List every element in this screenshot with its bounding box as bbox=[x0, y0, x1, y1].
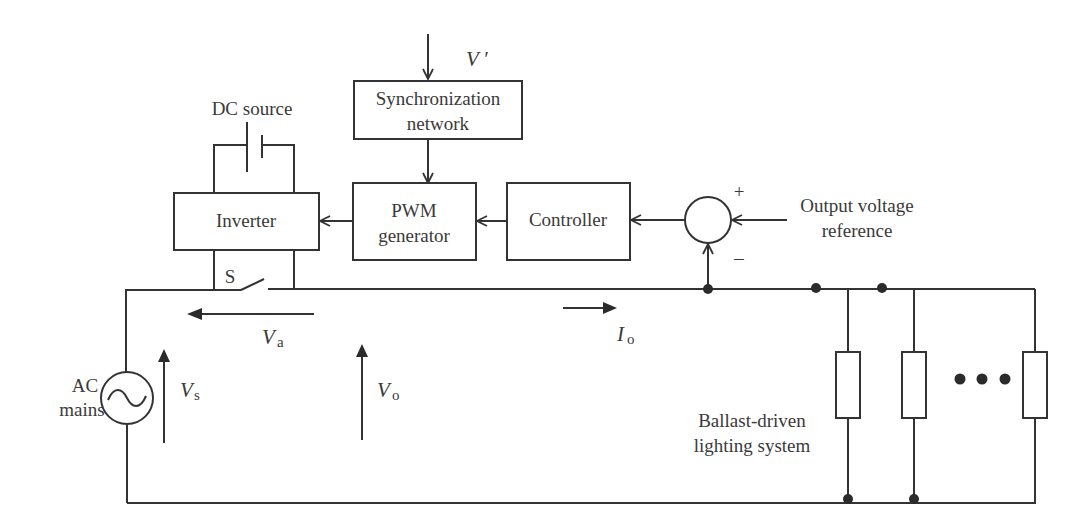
v-prime-label: V ′ bbox=[466, 47, 488, 71]
ellipsis-dot-2 bbox=[977, 374, 988, 385]
io-arrow-head bbox=[603, 302, 617, 314]
pwm-generator-block: PWM generator bbox=[353, 183, 476, 260]
va-main: V bbox=[262, 325, 277, 349]
inverter-label: Inverter bbox=[216, 210, 277, 231]
pwm-label-line1: PWM bbox=[391, 200, 437, 221]
va-arrow-head bbox=[187, 308, 202, 320]
dc-source-label: DC source bbox=[212, 98, 293, 119]
load-n-ballast bbox=[1023, 352, 1047, 418]
junction-dot-1 bbox=[811, 283, 821, 293]
sync-label-line1: Synchronization bbox=[376, 88, 501, 109]
switch-label: S bbox=[225, 266, 236, 287]
vs-sub: s bbox=[194, 387, 200, 403]
vo-sub: o bbox=[392, 387, 400, 403]
output-reference-line1: Output voltage bbox=[800, 195, 913, 216]
va-sub: a bbox=[277, 334, 284, 350]
ac-label-line2: mains bbox=[59, 399, 104, 420]
minus-sign: – bbox=[733, 247, 744, 268]
pwm-label-line2: generator bbox=[378, 225, 450, 246]
synchronization-network-block: Synchronization network bbox=[354, 81, 522, 139]
vo-main: V bbox=[377, 378, 392, 402]
top-bus: S bbox=[126, 250, 1035, 372]
load-1-bottom-dot bbox=[843, 494, 853, 504]
load-2 bbox=[902, 289, 926, 504]
switch-s bbox=[241, 279, 264, 290]
io-indicator: I o bbox=[563, 302, 635, 347]
v-prime-input: V ′ bbox=[428, 34, 488, 79]
junction-dot-2 bbox=[877, 283, 887, 293]
io-main: I bbox=[616, 322, 625, 346]
dc-source: DC source bbox=[212, 98, 294, 193]
load-2-bottom-dot bbox=[909, 494, 919, 504]
load-2-ballast bbox=[902, 352, 926, 418]
summing-junction-circle bbox=[685, 197, 731, 243]
ac-mains-source: AC mains bbox=[59, 372, 153, 503]
controller-label: Controller bbox=[529, 209, 608, 230]
circuit-diagram: V ′ Synchronization network DC source In… bbox=[0, 0, 1086, 531]
load-1-ballast bbox=[836, 352, 860, 418]
left-bus-wire bbox=[126, 290, 241, 372]
vs-arrow-head bbox=[158, 349, 170, 362]
ellipsis-dot-3 bbox=[1000, 374, 1011, 385]
controller-block: Controller bbox=[507, 183, 630, 260]
io-sub: o bbox=[627, 331, 635, 347]
vo-arrow-head bbox=[356, 344, 368, 357]
load-n bbox=[1023, 289, 1047, 418]
plus-sign: + bbox=[734, 181, 745, 202]
ellipsis-icon bbox=[955, 374, 1011, 385]
sync-label-line2: network bbox=[407, 113, 470, 134]
dc-left-wire bbox=[214, 145, 247, 193]
lighting-label-line2: lighting system bbox=[694, 435, 811, 456]
output-reference-line2: reference bbox=[822, 220, 893, 241]
vo-indicator: V o bbox=[356, 344, 400, 440]
ac-label-line1: AC bbox=[72, 375, 98, 396]
dc-right-wire bbox=[262, 145, 294, 193]
pwm-generator-box bbox=[353, 183, 476, 260]
vs-indicator: V s bbox=[158, 349, 200, 443]
va-indicator: V a bbox=[187, 308, 314, 350]
summing-junction: + – bbox=[685, 181, 744, 268]
bottom-bus bbox=[127, 418, 1035, 503]
inverter-block: Inverter bbox=[174, 193, 319, 250]
lighting-label-line1: Ballast-driven bbox=[698, 410, 806, 431]
vs-main: V bbox=[180, 378, 195, 402]
load-1 bbox=[836, 289, 860, 504]
junction-dot-feedback bbox=[703, 284, 713, 294]
ellipsis-dot-1 bbox=[955, 374, 966, 385]
